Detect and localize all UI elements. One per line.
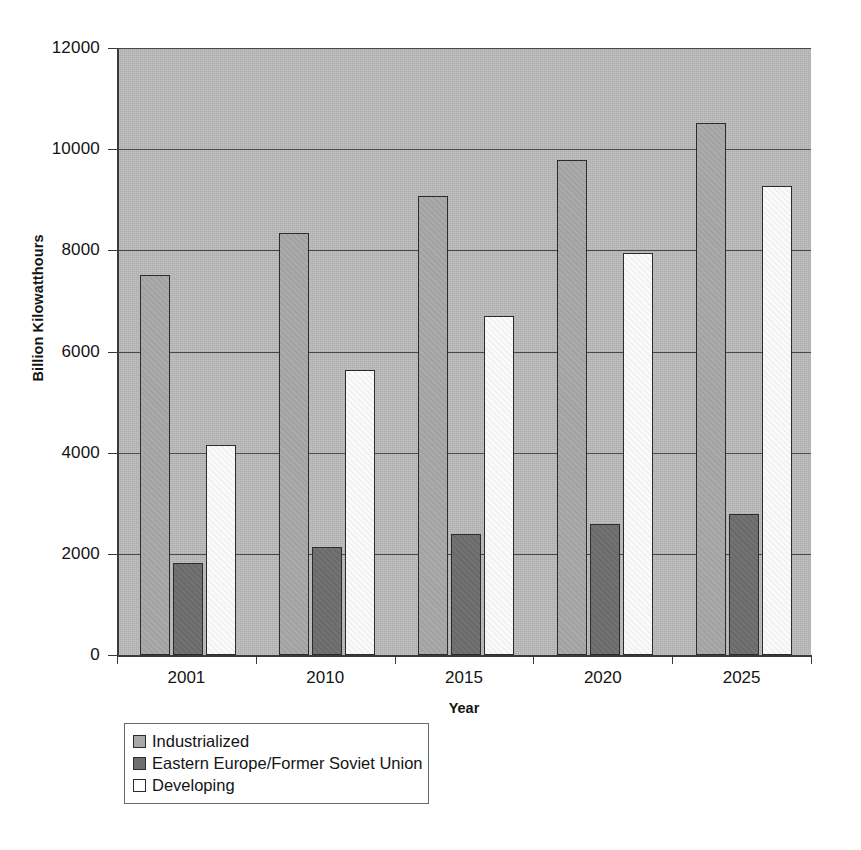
legend-swatch-icon — [133, 779, 146, 792]
y-axis-tick-label: 8000 — [0, 240, 100, 260]
bar-texture — [174, 564, 202, 654]
bar-texture — [763, 187, 791, 654]
bar — [173, 563, 203, 655]
x-axis-tick — [672, 655, 673, 664]
gridline — [119, 48, 811, 49]
legend-swatch-icon — [133, 757, 146, 770]
legend-label: Developing — [152, 776, 235, 795]
x-axis-tick-label: 2015 — [404, 668, 524, 688]
bar — [279, 233, 309, 655]
bar-texture — [485, 317, 513, 654]
bar-texture — [141, 276, 169, 654]
bar — [729, 514, 759, 655]
x-axis-tick — [533, 655, 534, 664]
bar — [557, 160, 587, 655]
x-axis-tick — [395, 655, 396, 664]
y-axis-tick-label: 4000 — [0, 443, 100, 463]
legend-items: IndustrializedEastern Europe/Former Sovi… — [133, 730, 420, 796]
legend-item: Industrialized — [133, 730, 420, 752]
bar — [762, 186, 792, 655]
x-axis-tick — [256, 655, 257, 664]
legend-item: Developing — [133, 774, 420, 796]
x-axis-tick-label: 2010 — [265, 668, 385, 688]
bar — [418, 196, 448, 655]
x-axis-tick-label: 2025 — [682, 668, 802, 688]
bar-texture — [624, 254, 652, 654]
legend-label: Industrialized — [152, 732, 249, 751]
x-axis-line — [117, 655, 811, 657]
y-axis-tick-label: 12000 — [0, 38, 100, 58]
chart-figure: 020004000600080001000012000 200120102015… — [0, 0, 861, 850]
x-axis-title: Year — [117, 700, 811, 716]
bar-texture — [558, 161, 586, 654]
legend-swatch-icon — [133, 735, 146, 748]
legend-label: Eastern Europe/Former Soviet Union — [152, 754, 423, 773]
bar — [345, 370, 375, 655]
bar — [451, 534, 481, 655]
bar-texture — [313, 548, 341, 654]
y-axis-tick-label: 0 — [0, 645, 100, 665]
y-axis-title: Billion Kilowatthours — [30, 208, 46, 408]
bar — [590, 524, 620, 655]
bar — [206, 445, 236, 655]
x-axis-tick-label: 2001 — [126, 668, 246, 688]
bar — [312, 547, 342, 655]
x-axis-tick — [117, 655, 118, 664]
x-axis-tick — [811, 655, 812, 664]
bar-texture — [730, 515, 758, 654]
y-axis-tick-label: 10000 — [0, 139, 100, 159]
y-axis-tick-label: 6000 — [0, 342, 100, 362]
bar — [140, 275, 170, 655]
bar — [696, 123, 726, 655]
bar-texture — [452, 535, 480, 654]
bar-texture — [207, 446, 235, 654]
chart-legend: IndustrializedEastern Europe/Former Sovi… — [124, 723, 429, 804]
legend-item: Eastern Europe/Former Soviet Union — [133, 752, 420, 774]
bar-texture — [346, 371, 374, 654]
bar — [623, 253, 653, 655]
plot-area — [117, 48, 811, 655]
bar-texture — [419, 197, 447, 654]
y-axis-tick-label: 2000 — [0, 544, 100, 564]
bar — [484, 316, 514, 655]
bar-texture — [697, 124, 725, 654]
x-axis-tick-label: 2020 — [543, 668, 663, 688]
bar-texture — [591, 525, 619, 654]
bar-texture — [280, 234, 308, 654]
